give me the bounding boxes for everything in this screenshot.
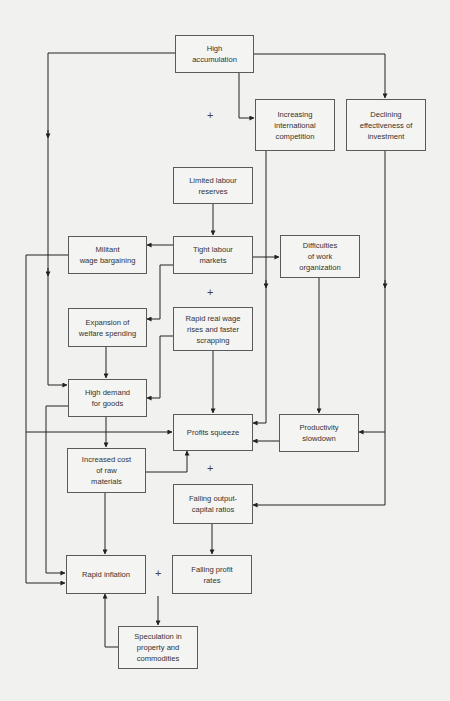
node-label: High — [192, 43, 237, 54]
node-rapid-inflation: Rapid inflation — [66, 555, 146, 594]
node-limited-labour-reserves: Limited labourreserves — [173, 167, 253, 204]
node-label: rises and faster — [186, 324, 241, 335]
node-label: Speculation in — [134, 631, 182, 642]
node-label: reserves — [189, 186, 237, 197]
node-falling-profit-rates: Falling profitrates — [172, 555, 252, 594]
plus-sign: + — [207, 110, 213, 121]
flow-diagram: Highaccumulation Increasinginternational… — [0, 0, 450, 701]
node-label: scrapping — [186, 335, 241, 346]
node-real-wage-rises: Rapid real wagerises and fasterscrapping — [173, 307, 253, 351]
plus-sign: + — [207, 463, 213, 474]
node-label: competition — [274, 131, 315, 142]
node-label: markets — [193, 255, 233, 266]
node-speculation: Speculation inproperty andcommodities — [118, 626, 198, 669]
node-militant-wage-bargaining: Militantwage bargaining — [68, 236, 147, 274]
node-label: materials — [82, 476, 131, 487]
node-work-organization: Difficultiesof workorganization — [280, 235, 360, 278]
node-label: Increasing — [274, 109, 315, 120]
node-international-competition: Increasinginternationalcompetition — [255, 99, 335, 151]
node-welfare-spending: Expansion ofwelfare spending — [68, 308, 147, 347]
node-high-accumulation: Highaccumulation — [175, 35, 254, 73]
node-label: welfare spending — [79, 328, 136, 339]
node-label: Rapid real wage — [186, 313, 241, 324]
node-tight-labour-markets: Tight labourmarkets — [173, 236, 253, 274]
node-label: Expansion of — [79, 317, 136, 328]
node-label: commodities — [134, 653, 182, 664]
node-label: international — [274, 120, 315, 131]
node-label: Increased cost — [82, 454, 131, 465]
node-label: Rapid inflation — [82, 569, 130, 580]
node-label: High demand — [85, 387, 130, 398]
node-declining-investment: Decliningeffectiveness ofinvestment — [346, 99, 426, 151]
node-label: of work — [299, 251, 340, 262]
node-label: wage bargaining — [80, 255, 136, 266]
node-output-capital-ratios: Falling output-capital ratios — [173, 484, 253, 524]
node-label: slowdown — [299, 433, 338, 444]
node-label: Falling output- — [189, 493, 237, 504]
node-label: investment — [360, 131, 413, 142]
node-label: effectiveness of — [360, 120, 413, 131]
node-label: Militant — [80, 244, 136, 255]
node-label: rates — [191, 575, 232, 586]
node-high-demand: High demandfor goods — [68, 379, 147, 417]
node-label: Declining — [360, 109, 413, 120]
node-label: Limited labour — [189, 175, 237, 186]
node-label: organization — [299, 262, 340, 273]
plus-sign: + — [207, 287, 213, 298]
node-profits-squeeze: Profits squeeze — [173, 414, 253, 451]
node-label: Profits squeeze — [187, 427, 239, 438]
node-label: property and — [134, 642, 182, 653]
node-label: Tight labour — [193, 244, 233, 255]
node-label: Falling profit — [191, 564, 232, 575]
plus-sign: + — [155, 568, 161, 579]
node-label: Difficulties — [299, 240, 340, 251]
node-raw-materials-cost: Increased costof rawmaterials — [67, 448, 146, 493]
node-productivity-slowdown: Productivityslowdown — [279, 414, 359, 452]
node-label: accumulation — [192, 54, 237, 65]
node-label: for goods — [85, 398, 130, 409]
node-label: Productivity — [299, 422, 338, 433]
node-label: capital ratios — [189, 504, 237, 515]
node-label: of raw — [82, 465, 131, 476]
